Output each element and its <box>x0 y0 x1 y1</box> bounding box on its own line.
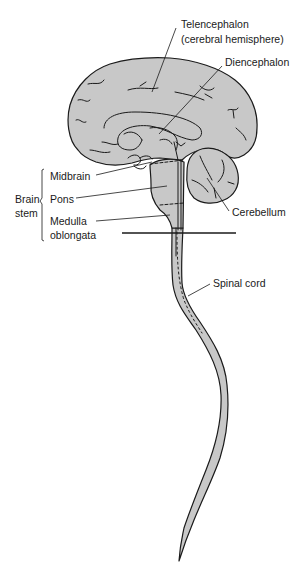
leader-spinal-cord <box>188 284 210 296</box>
midbrain-label: Midbrain <box>50 170 90 182</box>
brainstem-shape <box>150 159 184 228</box>
leader-medulla <box>96 215 170 221</box>
cerebellum-label: Cerebellum <box>232 206 286 218</box>
telencephalon-sublabel: (cerebral hemisphere) <box>181 33 284 45</box>
brain-stem-bracket <box>40 169 44 241</box>
spinal-cord-label: Spinal cord <box>213 277 266 289</box>
telencephalon-label: Telencephalon <box>181 18 249 30</box>
cerebrum-shape <box>68 58 257 165</box>
brain-stem-label-line2: stem <box>15 207 38 219</box>
medulla-label: Medulla <box>50 215 87 227</box>
brain-stem-label-line1: Brain <box>15 193 40 205</box>
pons-label: Pons <box>50 193 74 205</box>
diencephalon-label: Diencephalon <box>225 56 289 68</box>
oblongata-label: oblongata <box>50 229 96 241</box>
